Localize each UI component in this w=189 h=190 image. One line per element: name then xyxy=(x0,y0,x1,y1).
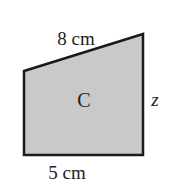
top-side-label: 8 cm xyxy=(57,28,95,49)
bottom-side-label: 5 cm xyxy=(48,162,86,183)
shape-label: C xyxy=(77,89,90,111)
right-side-label: z xyxy=(150,89,159,110)
diagram-canvas: 8 cm C z 5 cm xyxy=(0,0,189,190)
